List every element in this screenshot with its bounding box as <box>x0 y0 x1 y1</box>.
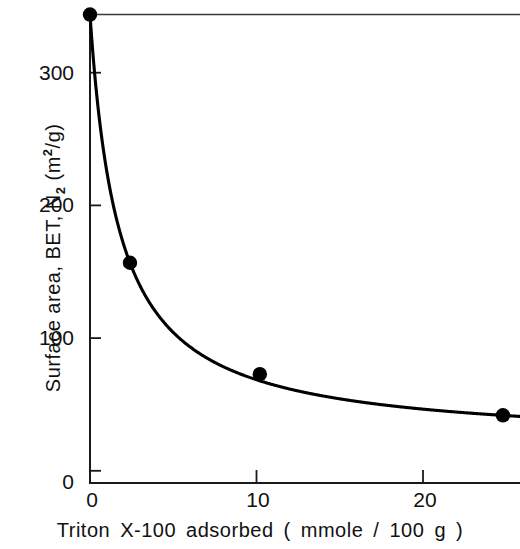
data-curve <box>90 15 520 417</box>
x-tick-label-0: 0 <box>86 488 98 512</box>
x-axis-title: Triton X-100 adsorbed ( mmole / 100 g ) <box>0 519 520 542</box>
y-axis-title-superscript: 2 <box>40 148 55 156</box>
y-axis-title-pre: Surface area, BET, N <box>42 194 64 392</box>
data-point-marker <box>123 256 137 270</box>
data-point-marker <box>83 7 97 21</box>
y-axis-title-mid: (m <box>42 156 64 186</box>
x-tick-label-10: 10 <box>246 488 269 512</box>
y-tick-label-300: 300 <box>16 61 74 85</box>
y-axis-title-post: /g) <box>42 124 64 149</box>
y-axis-title: Surface area, BET, N2 (m2/g) <box>40 98 68 418</box>
data-point-marker <box>496 408 510 422</box>
x-tick-label-20: 20 <box>413 488 436 512</box>
y-tick-label-0: 0 <box>16 470 74 494</box>
y-axis-title-subscript: 2 <box>53 187 68 195</box>
data-point-marker <box>253 367 267 381</box>
chart-figure: 300 200 100 0 0 10 20 Surface area, BET,… <box>0 0 520 549</box>
data-point-markers <box>83 7 510 422</box>
plot-area <box>0 0 520 549</box>
